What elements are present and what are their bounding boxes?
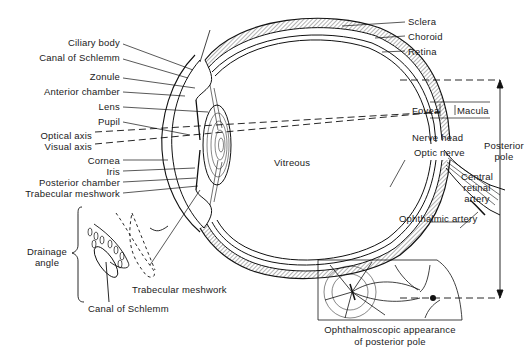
label-trabecular-meshwork: Trabecular meshwork [0, 188, 120, 199]
label-drainage-angle-2: angle [22, 257, 72, 268]
label-ophthalmic-artery: Ophthalmic artery [399, 213, 477, 224]
label-pupil: Pupil [20, 116, 120, 127]
label-retina: Retina [408, 46, 437, 57]
label-visual-axis: Visual axis [0, 141, 92, 152]
label-iris: Iris [20, 166, 120, 177]
label-optical-axis: Optical axis [0, 130, 92, 141]
label-posterior-chamber: Posterior chamber [0, 177, 120, 188]
label-anterior-chamber: Anterior chamber [20, 86, 120, 97]
label-optic-nerve: Optic nerve [414, 147, 465, 158]
label-choroid: Choroid [408, 31, 443, 42]
label-inset-trabecular-meshwork: Trabecular meshwork [132, 284, 227, 295]
label-drainage-angle-1: Drainage [22, 246, 72, 257]
label-central-retinal-artery: Central retinal artery [452, 171, 502, 204]
label-canal-of-schlemm: Canal of Schlemm [20, 52, 120, 63]
label-macula: Macula [457, 105, 489, 116]
label-posterior-pole: Posterior pole [478, 140, 530, 162]
label-ciliary-body: Ciliary body [20, 37, 120, 48]
label-fovea: Fovea [412, 105, 439, 116]
label-zonule: Zonule [20, 71, 120, 82]
label-lens: Lens [20, 101, 120, 112]
label-nerve-head: Nerve head [412, 132, 463, 143]
label-vitreous: Vitreous [274, 157, 310, 168]
label-cornea: Cornea [20, 155, 120, 166]
fundus-caption-2: of posterior pole [300, 336, 480, 347]
eye-anatomy-diagram: Ciliary body Canal of Schlemm Zonule Ant… [0, 0, 531, 349]
fundus-caption-1: Ophthalmoscopic appearance [300, 324, 480, 335]
label-sclera: Sclera [408, 16, 436, 27]
label-inset-canal-of-schlemm: Canal of Schlemm [88, 303, 169, 314]
